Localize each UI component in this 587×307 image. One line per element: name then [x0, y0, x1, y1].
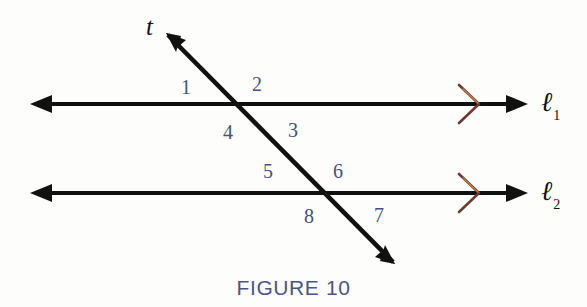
figure-caption: FIGURE 10 [0, 276, 587, 300]
line-1-arrowhead-left [30, 95, 52, 113]
transversal-arrowhead-top-barb [166, 33, 181, 52]
angle-label-6: 6 [327, 161, 349, 181]
angle-label-1: 1 [175, 77, 197, 97]
line-1-arrowhead-right [506, 95, 528, 113]
line-2-group [30, 174, 528, 212]
transversal-label: t [146, 14, 153, 39]
transversal-line [168, 35, 393, 262]
line-2-parallel-tick-highlight-icon [463, 178, 478, 192]
angle-label-3: 3 [282, 120, 304, 140]
angle-label-5: 5 [257, 161, 279, 181]
line-2-label-symbol: ℓ [541, 176, 552, 206]
line-1-label-subscript: 1 [553, 108, 560, 123]
line-2-arrowhead-right [506, 184, 528, 202]
angle-label-8: 8 [298, 206, 320, 226]
figure-container: t ℓ1 ℓ2 1 2 3 4 5 6 7 8 FIGURE 10 [0, 0, 587, 307]
angle-label-2: 2 [246, 74, 268, 94]
geometry-diagram [0, 0, 587, 307]
transversal-line-group [166, 33, 395, 264]
line-1-parallel-tick-highlight-icon [463, 89, 478, 103]
line-2-label: ℓ2 [541, 178, 559, 209]
line-2-label-subscript: 2 [553, 197, 560, 212]
line-2-arrowhead-left [30, 184, 52, 202]
angle-label-7: 7 [368, 205, 390, 225]
transversal-arrowhead-bottom-barb [380, 245, 395, 264]
line-1-label: ℓ1 [541, 89, 559, 120]
line-1-group [30, 85, 528, 123]
line-1-label-symbol: ℓ [541, 87, 552, 117]
angle-label-4: 4 [217, 122, 239, 142]
